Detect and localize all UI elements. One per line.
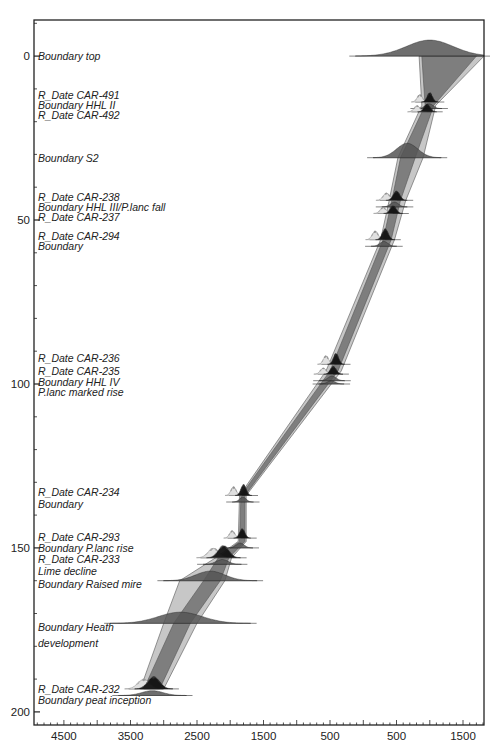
x-tick-label: 4500 xyxy=(51,730,77,742)
annotation-label: Boundary Raised mire xyxy=(38,578,142,590)
annotation-label: R_Date CAR-492 xyxy=(38,109,120,121)
annotation-label: Boundary top xyxy=(38,50,101,62)
annotation-label: Boundary S2 xyxy=(38,152,99,164)
annotation-label: R_Date CAR-235 xyxy=(38,365,120,377)
envelope-layer xyxy=(140,56,484,689)
y-tick-label: 200 xyxy=(11,706,30,718)
y-axis-ticks: 050100150200 xyxy=(11,23,40,718)
age-depth-chart: 45003500250015005005001500 050100150200 … xyxy=(0,0,498,749)
x-tick-label: 500 xyxy=(387,730,406,742)
boundary-distribution xyxy=(373,143,441,157)
distribution-layer xyxy=(104,40,490,695)
envelope-95 xyxy=(140,56,484,689)
annotation-label: development xyxy=(38,637,99,649)
x-tick-label: 1500 xyxy=(251,730,277,742)
y-tick-label: 50 xyxy=(17,214,30,226)
annotation-label: R_Date CAR-232 xyxy=(38,683,120,695)
annotation-label: R_Date CAR-293 xyxy=(38,531,120,543)
x-tick-label: 500 xyxy=(320,730,339,742)
y-tick-label: 100 xyxy=(11,378,30,390)
annotation-label: P.lanc marked rise xyxy=(38,386,124,398)
boundary-distribution xyxy=(110,612,251,623)
annotation-label: R_Date CAR-236 xyxy=(38,352,120,364)
annotation-layer: Boundary topR_Date CAR-491Boundary HHL I… xyxy=(38,50,166,706)
x-tick-label: 1500 xyxy=(450,730,476,742)
x-tick-label: 2500 xyxy=(184,730,210,742)
x-tick-label: 3500 xyxy=(118,730,144,742)
annotation-label: Boundary Heath xyxy=(38,621,114,633)
boundary-distribution xyxy=(355,40,484,56)
y-tick-label: 150 xyxy=(11,542,30,554)
annotation-label: Boundary P.lanc rise xyxy=(38,542,134,554)
annotation-label: R_Date CAR-234 xyxy=(38,486,120,498)
annotation-label: Boundary xyxy=(38,498,84,510)
annotation-label: R_Date CAR-237 xyxy=(38,211,121,223)
boundary-distribution xyxy=(163,571,257,581)
annotation-label: Lime decline xyxy=(38,565,97,577)
annotation-label: R_Date CAR-233 xyxy=(38,553,120,565)
x-axis-ticks: 45003500250015005005001500 xyxy=(37,720,483,742)
y-tick-label: 0 xyxy=(24,50,30,62)
annotation-label: Boundary peat inception xyxy=(38,694,151,706)
annotation-label: Boundary xyxy=(38,240,84,252)
boundary-distribution xyxy=(232,497,253,502)
